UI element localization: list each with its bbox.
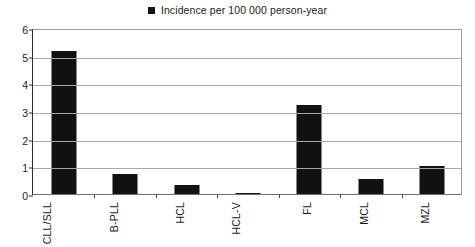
bar-slot	[217, 30, 278, 194]
bar[interactable]	[358, 179, 383, 194]
bar[interactable]	[297, 105, 322, 194]
x-axis-label-slot: CLL/SLL	[32, 200, 93, 247]
bar-slot	[156, 30, 217, 194]
legend-entry-incidence: Incidence per 100 000 person-year	[148, 5, 327, 16]
x-axis-tick-label: CLL/SLL	[42, 202, 53, 244]
y-axis-tick-mark	[29, 196, 33, 197]
y-axis-tick-mark	[29, 113, 33, 114]
x-axis-tick-mark	[402, 194, 403, 198]
x-axis-label-slot: HCL-V	[216, 200, 277, 247]
plot-area: 0123456	[32, 29, 462, 195]
x-axis-label-slot: MZL	[401, 200, 462, 247]
y-axis-tick-mark	[29, 85, 33, 86]
y-axis-tick-mark	[29, 57, 33, 58]
x-axis-tick-label: HCL	[175, 202, 186, 224]
legend-label: Incidence per 100 000 person-year	[161, 5, 327, 16]
y-axis-tick-mark	[29, 30, 33, 31]
bar[interactable]	[420, 166, 445, 194]
x-axis-labels: CLL/SLLB-PLLHCLHCL-VFLMCLMZL	[32, 200, 462, 247]
legend-square-icon	[148, 7, 155, 14]
y-axis-tick-mark	[29, 140, 33, 141]
bar-slot	[33, 30, 94, 194]
gridline	[33, 113, 461, 114]
gridline	[33, 85, 461, 86]
x-axis-tick-label: B-PLL	[109, 202, 120, 232]
x-axis-label-slot: HCL	[155, 200, 216, 247]
x-axis-tick-label: MCL	[358, 202, 369, 225]
bar[interactable]	[235, 193, 260, 194]
bar-slot	[340, 30, 401, 194]
bar-chart: 0123456 CLL/SLLB-PLLHCLHCL-VFLMCLMZL	[0, 20, 475, 247]
x-axis-label-slot: MCL	[339, 200, 400, 247]
x-axis-tick-mark	[217, 194, 218, 198]
gridline	[33, 58, 461, 59]
bar[interactable]	[51, 51, 76, 194]
x-axis-tick-label: FL	[302, 202, 313, 215]
x-axis-label-slot: FL	[278, 200, 339, 247]
bar[interactable]	[174, 185, 199, 194]
x-axis-tick-mark	[279, 194, 280, 198]
gridline	[33, 168, 461, 169]
chart-legend: Incidence per 100 000 person-year	[0, 0, 475, 20]
gridline	[33, 141, 461, 142]
x-axis-label-slot: B-PLL	[93, 200, 154, 247]
bar-slot	[94, 30, 155, 194]
bars-layer	[33, 30, 461, 194]
x-axis-tick-mark	[94, 194, 95, 198]
bar[interactable]	[113, 174, 138, 194]
x-axis-tick-label: HCL-V	[231, 202, 242, 235]
bar-slot	[402, 30, 463, 194]
x-axis-tick-mark	[340, 194, 341, 198]
y-axis-tick-mark	[29, 168, 33, 169]
x-axis-tick-label: MZL	[420, 202, 431, 224]
x-axis-tick-mark	[156, 194, 157, 198]
bar-slot	[279, 30, 340, 194]
